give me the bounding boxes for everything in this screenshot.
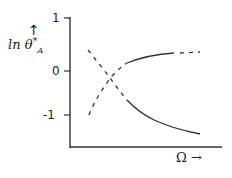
rising-curve-dashed-left xyxy=(89,63,127,115)
y-tick-label-1: 1 xyxy=(52,12,60,24)
y-axis-label-sup: * xyxy=(33,35,38,46)
falling-curve-solid xyxy=(127,100,200,134)
y-axis-label-text: ln θ xyxy=(8,37,33,52)
y-axis-label: ln θ*A xyxy=(8,34,43,58)
x-axis-label: Ω → xyxy=(176,150,202,165)
rising-curve-dashed-right xyxy=(180,52,200,53)
rising-curve-solid xyxy=(127,53,174,63)
y-tick-label-0: 0 xyxy=(52,65,60,77)
y-tick-label-minus-1: -1 xyxy=(43,109,55,121)
falling-curve-dashed-left xyxy=(88,50,127,100)
y-axis-label-sub: A xyxy=(38,46,44,55)
